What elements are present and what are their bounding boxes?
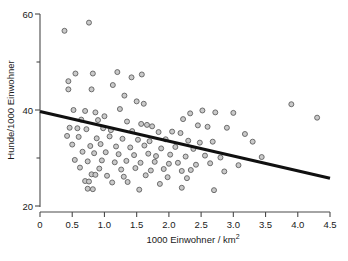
data-point: [94, 136, 99, 141]
data-point: [97, 166, 102, 171]
y-tick-label: 60: [22, 9, 33, 20]
data-point: [93, 110, 98, 115]
x-axis: 00.51.01.52.02.53.03.54.04.5: [37, 212, 336, 230]
data-point: [188, 168, 193, 173]
data-point: [125, 119, 130, 124]
data-point: [72, 157, 77, 162]
data-point: [129, 75, 134, 80]
data-point: [132, 153, 137, 158]
data-point: [148, 168, 153, 173]
data-point: [218, 155, 223, 160]
data-point: [86, 20, 91, 25]
data-point: [125, 180, 130, 185]
y-axis: 204060: [22, 9, 40, 212]
plot-canvas: 204060 00.51.01.52.02.53.03.54.04.5 Hund…: [0, 0, 348, 261]
data-point: [65, 133, 70, 138]
data-point: [99, 158, 104, 163]
data-point: [121, 174, 126, 179]
data-point: [75, 126, 80, 131]
data-point: [98, 142, 103, 147]
data-point: [96, 118, 101, 123]
x-axis-title: 1000 Einwohner / km2: [146, 233, 239, 245]
data-point: [117, 107, 122, 112]
data-point: [115, 70, 120, 75]
x-tick-label: 4.5: [323, 219, 336, 230]
data-point: [224, 125, 229, 130]
data-point: [179, 185, 184, 190]
x-tick-label: 3.5: [259, 219, 272, 230]
data-point: [102, 114, 107, 119]
data-point: [83, 108, 88, 113]
data-point: [124, 158, 129, 163]
data-point: [186, 138, 191, 143]
data-point: [179, 168, 184, 173]
data-point: [195, 123, 200, 128]
data-point: [315, 115, 320, 120]
data-point: [154, 154, 159, 159]
x-tick-label: 1.0: [98, 219, 111, 230]
data-point: [168, 152, 173, 157]
data-point: [259, 155, 264, 160]
data-point: [193, 162, 198, 167]
data-point: [188, 111, 193, 116]
data-point: [143, 173, 148, 178]
y-tick-label: 40: [22, 105, 33, 116]
data-point: [128, 145, 133, 150]
data-point: [66, 79, 71, 84]
data-point: [157, 181, 162, 186]
data-point: [146, 151, 151, 156]
data-point: [208, 161, 213, 166]
data-point: [119, 167, 124, 172]
data-point: [110, 83, 115, 88]
data-point: [150, 124, 155, 129]
data-point: [144, 122, 149, 127]
data-point: [90, 71, 95, 76]
data-point: [165, 175, 170, 180]
x-tick-label: 1.5: [130, 219, 143, 230]
x-tick-label: 3.0: [227, 219, 240, 230]
data-point: [161, 167, 166, 172]
data-point: [112, 160, 117, 165]
data-point: [114, 144, 119, 149]
data-point: [85, 186, 90, 191]
y-axis-title: Hunde/1000 Einwohner: [5, 60, 16, 159]
data-point: [242, 132, 247, 137]
y-tick-label: 20: [22, 201, 33, 212]
x-tick-label: 4.0: [291, 219, 304, 230]
data-point: [236, 163, 241, 168]
data-point: [202, 153, 207, 158]
data-point: [250, 139, 255, 144]
data-point: [92, 151, 97, 156]
data-point: [80, 149, 85, 154]
data-point: [141, 101, 146, 106]
data-point: [200, 108, 205, 113]
data-point: [110, 180, 115, 185]
data-point: [212, 188, 217, 193]
data-point: [134, 99, 139, 104]
data-point: [170, 129, 175, 134]
data-point: [205, 124, 210, 129]
data-point: [183, 154, 188, 159]
data-point: [139, 121, 144, 126]
data-point: [84, 127, 89, 132]
data-point: [181, 117, 186, 122]
data-point: [85, 159, 90, 164]
data-point: [213, 110, 218, 115]
data-point: [90, 187, 95, 192]
data-point: [138, 160, 143, 165]
data-point: [76, 134, 81, 139]
data-point: [210, 139, 215, 144]
data-point: [103, 150, 108, 155]
data-point: [66, 87, 71, 92]
x-tick-label: 2.0: [162, 219, 175, 230]
data-point: [93, 172, 98, 177]
data-point: [156, 130, 161, 135]
data-point: [147, 139, 152, 144]
data-point: [71, 108, 76, 113]
data-point: [122, 93, 127, 98]
scatter-chart: 204060 00.51.01.52.02.53.03.54.04.5 Hund…: [0, 0, 348, 261]
data-point: [135, 137, 140, 142]
x-tick-label: 0: [37, 219, 42, 230]
data-point: [107, 134, 112, 139]
data-point: [70, 142, 75, 147]
